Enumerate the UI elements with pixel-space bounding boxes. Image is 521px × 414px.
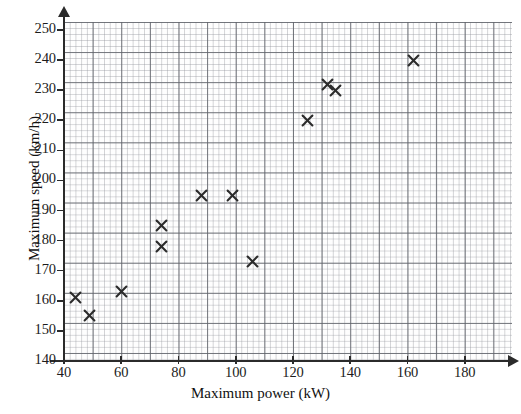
y-axis-line: [63, 14, 65, 362]
y-axis-tick: [57, 89, 65, 91]
y-axis-tick: [57, 270, 65, 272]
x-axis-tick-label: 160: [388, 364, 428, 381]
y-axis-arrowhead: [58, 6, 70, 17]
plot-area: [64, 22, 512, 361]
y-axis-tick: [57, 330, 65, 332]
x-axis-tick: [235, 356, 237, 364]
y-axis-tick: [57, 150, 65, 152]
x-axis-tick: [292, 356, 294, 364]
x-axis-tick-label: 60: [101, 364, 141, 381]
scatter-chart: 140150160170180190200210220230240250 406…: [0, 0, 521, 414]
x-axis-tick: [120, 356, 122, 364]
y-axis-tick: [57, 210, 65, 212]
major-gridlines: [64, 22, 512, 361]
x-axis-tick: [407, 356, 409, 364]
y-axis-tick-label: 150: [16, 321, 56, 338]
y-axis-tick: [57, 119, 65, 121]
x-axis-tick: [464, 356, 466, 364]
y-axis-tick: [57, 300, 65, 302]
x-axis-tick-label: 140: [330, 364, 370, 381]
x-axis-tick-label: 120: [273, 364, 313, 381]
x-axis-tick-label: 100: [216, 364, 256, 381]
y-axis-tick: [57, 59, 65, 61]
y-axis-tick: [57, 29, 65, 31]
x-axis-tick-label: 80: [159, 364, 199, 381]
x-axis-tick-label: 180: [445, 364, 485, 381]
y-axis-title: Maximum speed (km/h): [26, 59, 43, 319]
y-axis-tick: [57, 180, 65, 182]
x-axis-tick-label: 40: [44, 364, 84, 381]
x-axis-tick: [63, 356, 65, 364]
y-axis-tick-label: 250: [16, 20, 56, 37]
x-axis-line: [50, 360, 511, 362]
x-axis-arrowhead: [508, 355, 519, 367]
x-axis-tick: [178, 356, 180, 364]
x-axis-tick: [349, 356, 351, 364]
y-axis-tick: [57, 240, 65, 242]
x-axis-title: Maximum power (kW): [0, 385, 521, 402]
